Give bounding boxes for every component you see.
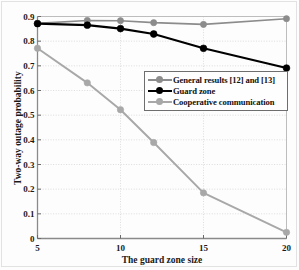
y-tick-label: 0.3: [23, 160, 34, 170]
data-point: [200, 21, 206, 27]
data-point: [150, 31, 157, 38]
y-tick-label: 0.7: [23, 61, 34, 71]
series-line: [38, 24, 287, 68]
x-tick-label: 5: [35, 243, 40, 253]
legend-item: General results [12] and [13]: [147, 74, 284, 85]
data-point: [84, 80, 90, 86]
legend-label: Cooperative communication: [173, 97, 274, 107]
series-line: [38, 19, 287, 25]
data-point: [200, 45, 207, 52]
y-axis-label: Two-way outage probability: [13, 71, 23, 185]
y-tick-label: 0.8: [23, 36, 34, 46]
data-point: [117, 25, 124, 32]
legend-item: Cooperative communication: [147, 96, 284, 107]
legend-dot-icon: [156, 98, 163, 105]
legend-item: Guard zone: [147, 85, 284, 96]
data-point: [84, 22, 91, 29]
gridlines: [38, 17, 287, 239]
chart-legend: General results [12] and [13]Guard zoneC…: [144, 71, 288, 111]
data-point: [117, 107, 123, 113]
y-tick-label: 0.2: [23, 184, 34, 194]
legend-label: General results [12] and [13]: [173, 75, 275, 85]
data-point: [200, 190, 206, 196]
axis-spines: [38, 17, 287, 239]
data-point: [117, 18, 123, 24]
legend-marker-icon: [147, 74, 173, 85]
x-tick-label: 20: [282, 243, 291, 253]
y-tick-label: 0.5: [23, 110, 34, 120]
chart-figure: 00.10.20.30.40.50.60.70.80.9 5101520 Two…: [0, 0, 299, 270]
tick-marks: [38, 17, 287, 239]
data-point: [283, 229, 289, 235]
series-2: [34, 20, 290, 71]
y-tick-label: 0.6: [23, 86, 34, 96]
data-point: [151, 139, 157, 145]
y-tick-label: 0.4: [23, 135, 34, 145]
legend-dot-icon: [156, 87, 163, 94]
legend-marker-icon: [147, 96, 173, 107]
y-tick-label: 0.1: [23, 209, 34, 219]
data-point: [34, 20, 41, 27]
y-tick-label: 0.9: [23, 12, 34, 22]
x-tick-label: 10: [116, 243, 125, 253]
x-tick-label: 15: [199, 243, 208, 253]
data-point: [151, 20, 157, 26]
data-point: [283, 16, 289, 22]
legend-marker-icon: [147, 85, 173, 96]
x-axis-label: The guard zone size: [38, 255, 287, 265]
plot-canvas: [0, 0, 299, 270]
legend-label: Guard zone: [173, 86, 215, 96]
y-tick-label: 0: [30, 234, 35, 244]
legend-dot-icon: [156, 76, 163, 83]
data-point: [34, 45, 40, 51]
